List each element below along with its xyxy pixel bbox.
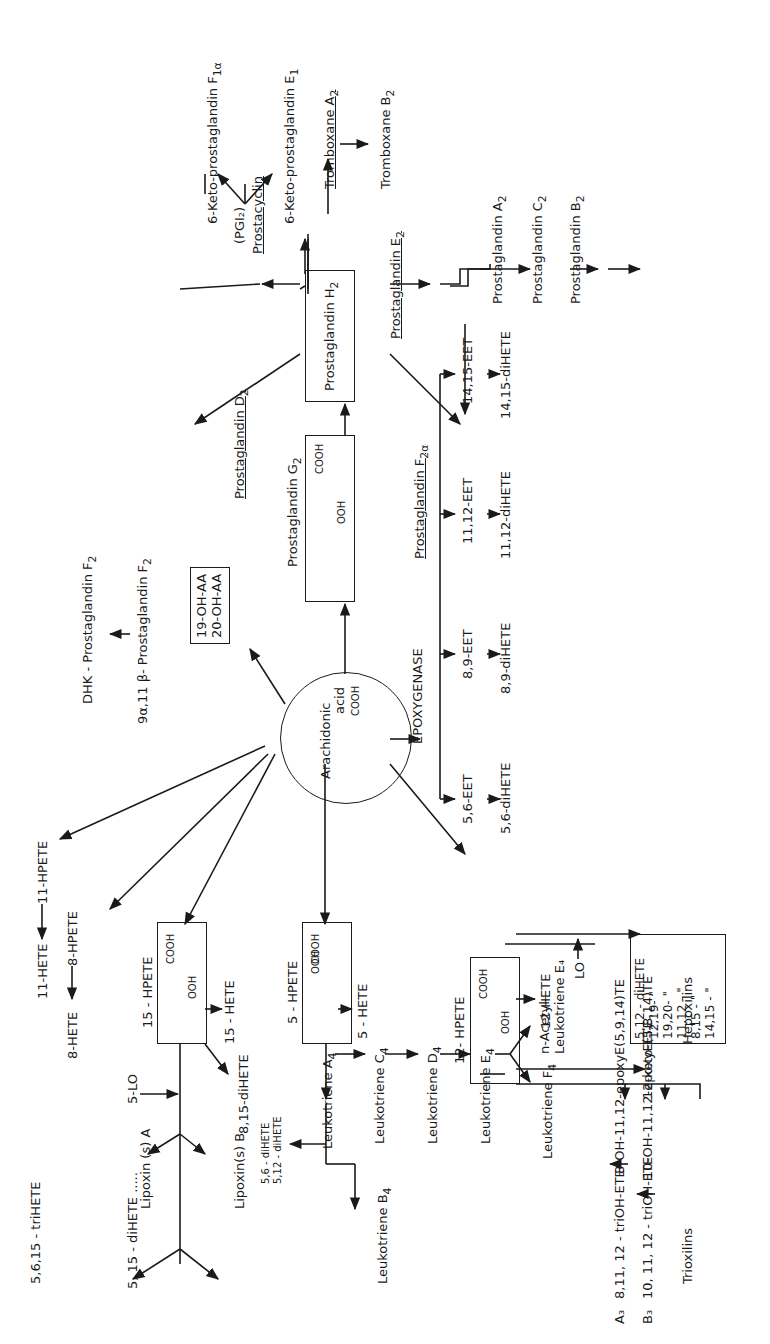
- dhk-prostaglandin-f2-label: DHK - Prostaglandin F2: [80, 556, 100, 704]
- 5-lo-enzyme-label: 5-LO: [125, 1074, 140, 1104]
- 15-hpete-ooh: OOH: [185, 976, 200, 999]
- 8-hpete-label: 8-HPETE: [65, 911, 80, 966]
- prostaglandin-e2-label: Prostaglandin E2: [388, 231, 408, 339]
- prostaglandin-f2a-label: Prostaglandin F2α: [412, 445, 432, 559]
- hepoxilin-a-label: 8-OH-11,12-epoxyE(5,9,14)TE: [612, 979, 627, 1174]
- 5-hpete-ooh: OOH: [308, 951, 323, 974]
- 5-6-15-trihete-label: 5,6,15 - triHETE: [28, 1181, 43, 1284]
- 5-12-dihete-label: 5,12 - diHETE: [270, 1116, 285, 1184]
- 5-15-dihete-label: 5, 15 - diHETE .....: [125, 1172, 140, 1289]
- eet-5-6: 5,6-EET: [460, 774, 475, 824]
- 12-hpete-ooh: OOH: [498, 1011, 513, 1034]
- n-acetyl-label-2: Leukotriene E₄: [552, 960, 567, 1054]
- eet-11-12: 11,12-EET: [460, 478, 475, 544]
- dihete-14-15: 14,15-diHETE: [498, 331, 513, 419]
- epoxygenase-label: EPOXYGENASE: [410, 648, 425, 744]
- trioxilin-b-prefix: B₃: [640, 1310, 655, 1324]
- trioxilin-a-label: 8,11, 12 - triOH-ETE: [612, 1169, 627, 1299]
- 12-hpete-cooh: COOH: [476, 969, 491, 999]
- 20-oh-aa-label: 20-OH-AA: [209, 574, 224, 638]
- 5-hete-label: 5 - HETE: [355, 984, 370, 1039]
- leukotriene-d4-label: Leukotriene D4: [425, 1046, 445, 1144]
- prostaglandin-f2-beta-label: 9α,11 β- Prostaglandin F2: [135, 558, 155, 724]
- trioxilin-a-prefix: A₃: [612, 1310, 627, 1324]
- 15-hete-label: 15 - HETE: [222, 980, 237, 1044]
- arachidonic-acid-pathway-diagram: Arachidonic acid COOH Prostaglandin G2 C…: [0, 0, 770, 1344]
- tromboxane-a2-label: Tromboxane A2: [322, 90, 342, 189]
- hepoxilins-label: Hepoxilins: [680, 977, 695, 1044]
- prostaglandin-b2-label: Prostaglandin B2: [568, 195, 588, 304]
- 19-oh-aa-label: 19-OH-AA: [194, 574, 209, 638]
- prostaglandin-g2-ooh: OOH: [334, 501, 349, 524]
- trioxilin-b-label: 10, 11, 12 - triOH-ETE: [640, 1157, 655, 1299]
- arachidonic-acid-formula: COOH: [348, 686, 363, 716]
- prostaglandin-c2-label: Prostaglandin C2: [530, 195, 550, 304]
- prostacyclin-abbr: (PGI₂): [232, 207, 247, 244]
- dihete-8-9: 8,9-diHETE: [498, 623, 513, 694]
- lipoxin-a-label: Lipoxin (s) A: [138, 1129, 153, 1209]
- lo-enzyme-label: LO: [572, 962, 587, 979]
- leukotriene-a4-label: Leukotriene A4: [320, 1053, 340, 1149]
- prostaglandin-a2-label: Prostaglandin A2: [490, 195, 510, 304]
- eet-14-15: 14,15-EET: [460, 338, 475, 404]
- 8-15-dihete-label: 8,15-diHETE: [236, 1054, 251, 1134]
- dihete-5-6: 5,6-diHETE: [498, 763, 513, 834]
- 15-hpete-cooh: COOH: [163, 934, 178, 964]
- prostaglandin-g2-label: Prostaglandin G2: [285, 457, 305, 567]
- leukotriene-b4-label: Leukotriene B4: [375, 1187, 395, 1284]
- dihete-list-row: 19,20- ": [661, 939, 675, 1039]
- 12-hpete-label: 12- HPETE: [452, 997, 467, 1064]
- keto-pge1-label: 6-Keto-prostaglandin E1: [282, 69, 302, 224]
- prostaglandin-d2-label: Prostaglandin D2: [232, 389, 252, 499]
- tromboxane-b2-label: Tromboxane B2: [378, 90, 398, 189]
- dihete-list-row: 14,15 - ": [703, 939, 717, 1039]
- trioxilins-label: Trioxilins: [680, 1228, 695, 1284]
- 12-hete-label: 12-HETE: [538, 974, 553, 1029]
- 8-hete-label: 8-HETE: [65, 1012, 80, 1059]
- hepoxilin-b-label: 10-OH-11,12-epoxyE(5,8,14)TE: [640, 976, 655, 1179]
- leukotriene-c4-label: Leukotriene C4: [372, 1047, 392, 1144]
- 5-hpete-label: 5 - HPETE: [285, 961, 300, 1024]
- arachidonic-acid-label-1: Arachidonic: [318, 703, 333, 779]
- dihete-11-12: 11,12-diHETE: [498, 471, 513, 559]
- leukotriene-f4-label: Leukotriene F4: [540, 1064, 560, 1159]
- arachidonic-acid-label-2: acid: [332, 687, 347, 714]
- 11-hpete-label: 11-HPETE: [35, 841, 50, 904]
- keto-pgf1a-label: 6-Keto-prostaglandin F1α: [205, 62, 225, 224]
- prostaglandin-g2-cooh: COOH: [312, 444, 327, 474]
- prostacyclin-label: Prostacyclin: [250, 176, 265, 254]
- lipoxin-b-label: Lipoxin(s) B: [232, 1133, 247, 1209]
- 15-hpete-label: 15 - HPETE: [140, 957, 155, 1028]
- eet-8-9: 8,9-EET: [460, 629, 475, 679]
- prostaglandin-h2-label: Prostaglandin H2: [322, 282, 342, 391]
- 11-hete-label: 11-HETE: [35, 944, 50, 999]
